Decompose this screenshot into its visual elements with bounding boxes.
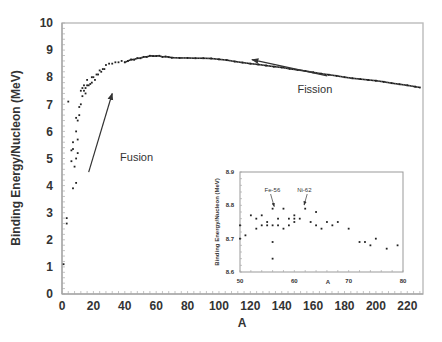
data-point — [72, 141, 74, 143]
x-tick-label: 40 — [118, 299, 132, 313]
data-point — [99, 70, 101, 72]
data-point — [78, 106, 80, 108]
inset-annotation-label: Ni-62 — [297, 187, 312, 193]
data-point — [71, 149, 73, 151]
data-point — [245, 234, 247, 236]
binding-energy-chart: 0204060801001201401601802002200123456789… — [0, 0, 442, 342]
data-point — [293, 214, 295, 216]
data-point — [114, 61, 116, 63]
y-tick-label: 0 — [46, 287, 53, 301]
y-tick-label: 8.9 — [226, 169, 235, 175]
data-point — [331, 224, 333, 226]
data-point — [82, 87, 84, 89]
data-point — [94, 79, 96, 81]
data-point — [397, 244, 399, 246]
data-point — [88, 84, 90, 86]
data-point — [75, 117, 77, 119]
data-point — [261, 224, 263, 226]
data-point — [239, 238, 241, 240]
data-point — [83, 84, 85, 86]
data-point — [283, 208, 285, 210]
data-point — [67, 101, 69, 103]
data-point — [326, 221, 328, 223]
data-point — [97, 74, 99, 76]
data-point — [80, 103, 82, 105]
data-point — [315, 224, 317, 226]
y-axis-title: Binding Energy/Nucleon (MeV) — [214, 178, 220, 266]
y-tick-label: 8.6 — [226, 269, 235, 275]
data-point — [315, 211, 317, 213]
data-point — [293, 218, 295, 220]
data-point — [118, 61, 120, 63]
data-point — [255, 228, 257, 230]
data-point — [288, 218, 290, 220]
data-point — [102, 68, 104, 70]
x-tick-label: 120 — [240, 299, 260, 313]
data-point — [337, 221, 339, 223]
x-tick-label: 60 — [291, 278, 298, 284]
data-point — [72, 148, 74, 150]
x-tick-label: 0 — [59, 299, 66, 313]
y-tick-label: 6 — [46, 125, 53, 139]
data-point — [288, 224, 290, 226]
x-tick-label: 140 — [272, 299, 292, 313]
data-point — [72, 187, 74, 189]
y-tick-label: 5 — [46, 152, 53, 166]
data-point — [272, 208, 274, 210]
x-tick-label: 180 — [335, 299, 355, 313]
annotation-label: Fusion — [120, 151, 153, 163]
data-point — [103, 68, 105, 70]
data-point — [75, 158, 77, 160]
data-point — [75, 182, 77, 184]
data-point — [100, 71, 102, 73]
x-tick-label: 80 — [181, 299, 195, 313]
data-point — [92, 76, 94, 78]
data-point — [82, 95, 84, 97]
data-point — [74, 166, 76, 168]
y-tick-label: 2 — [46, 233, 53, 247]
data-point — [255, 218, 257, 220]
data-point — [293, 221, 295, 223]
data-point — [83, 90, 85, 92]
data-point — [250, 214, 252, 216]
x-axis-title: A — [238, 316, 247, 330]
x-tick-label: 80 — [400, 278, 407, 284]
data-point — [272, 241, 274, 243]
data-point — [77, 152, 79, 154]
x-tick-label: 200 — [366, 299, 386, 313]
data-point — [348, 228, 350, 230]
data-point — [283, 228, 285, 230]
data-point — [77, 120, 79, 122]
y-axis-title: Binding Energy/Nucleon (MeV) — [9, 70, 23, 245]
data-point — [364, 241, 366, 243]
data-point — [272, 258, 274, 260]
data-point — [66, 217, 68, 219]
data-point — [63, 263, 65, 265]
x-tick-label: 20 — [87, 299, 101, 313]
data-point — [77, 139, 79, 141]
data-point — [266, 224, 268, 226]
x-tick-label: 220 — [397, 299, 417, 313]
data-point — [85, 87, 87, 89]
y-tick-label: 7 — [46, 98, 53, 112]
data-point — [310, 221, 312, 223]
x-axis-title: A — [326, 279, 331, 285]
data-point — [91, 76, 93, 78]
data-point — [304, 208, 306, 210]
data-point — [299, 218, 301, 220]
y-tick-label: 8 — [46, 70, 53, 84]
data-point — [105, 64, 107, 66]
data-point — [266, 221, 268, 223]
annotation-label: Fission — [297, 83, 332, 95]
data-point — [321, 228, 323, 230]
y-tick-label: 10 — [40, 16, 54, 30]
data-point — [370, 244, 372, 246]
inset-annotation-label: Fe-56 — [265, 187, 281, 193]
data-point — [108, 63, 110, 65]
x-tick-label: 70 — [345, 278, 352, 284]
data-point — [375, 238, 377, 240]
data-point — [66, 223, 68, 225]
data-point — [75, 131, 77, 133]
data-point — [121, 60, 123, 62]
y-tick-label: 4 — [46, 179, 53, 193]
